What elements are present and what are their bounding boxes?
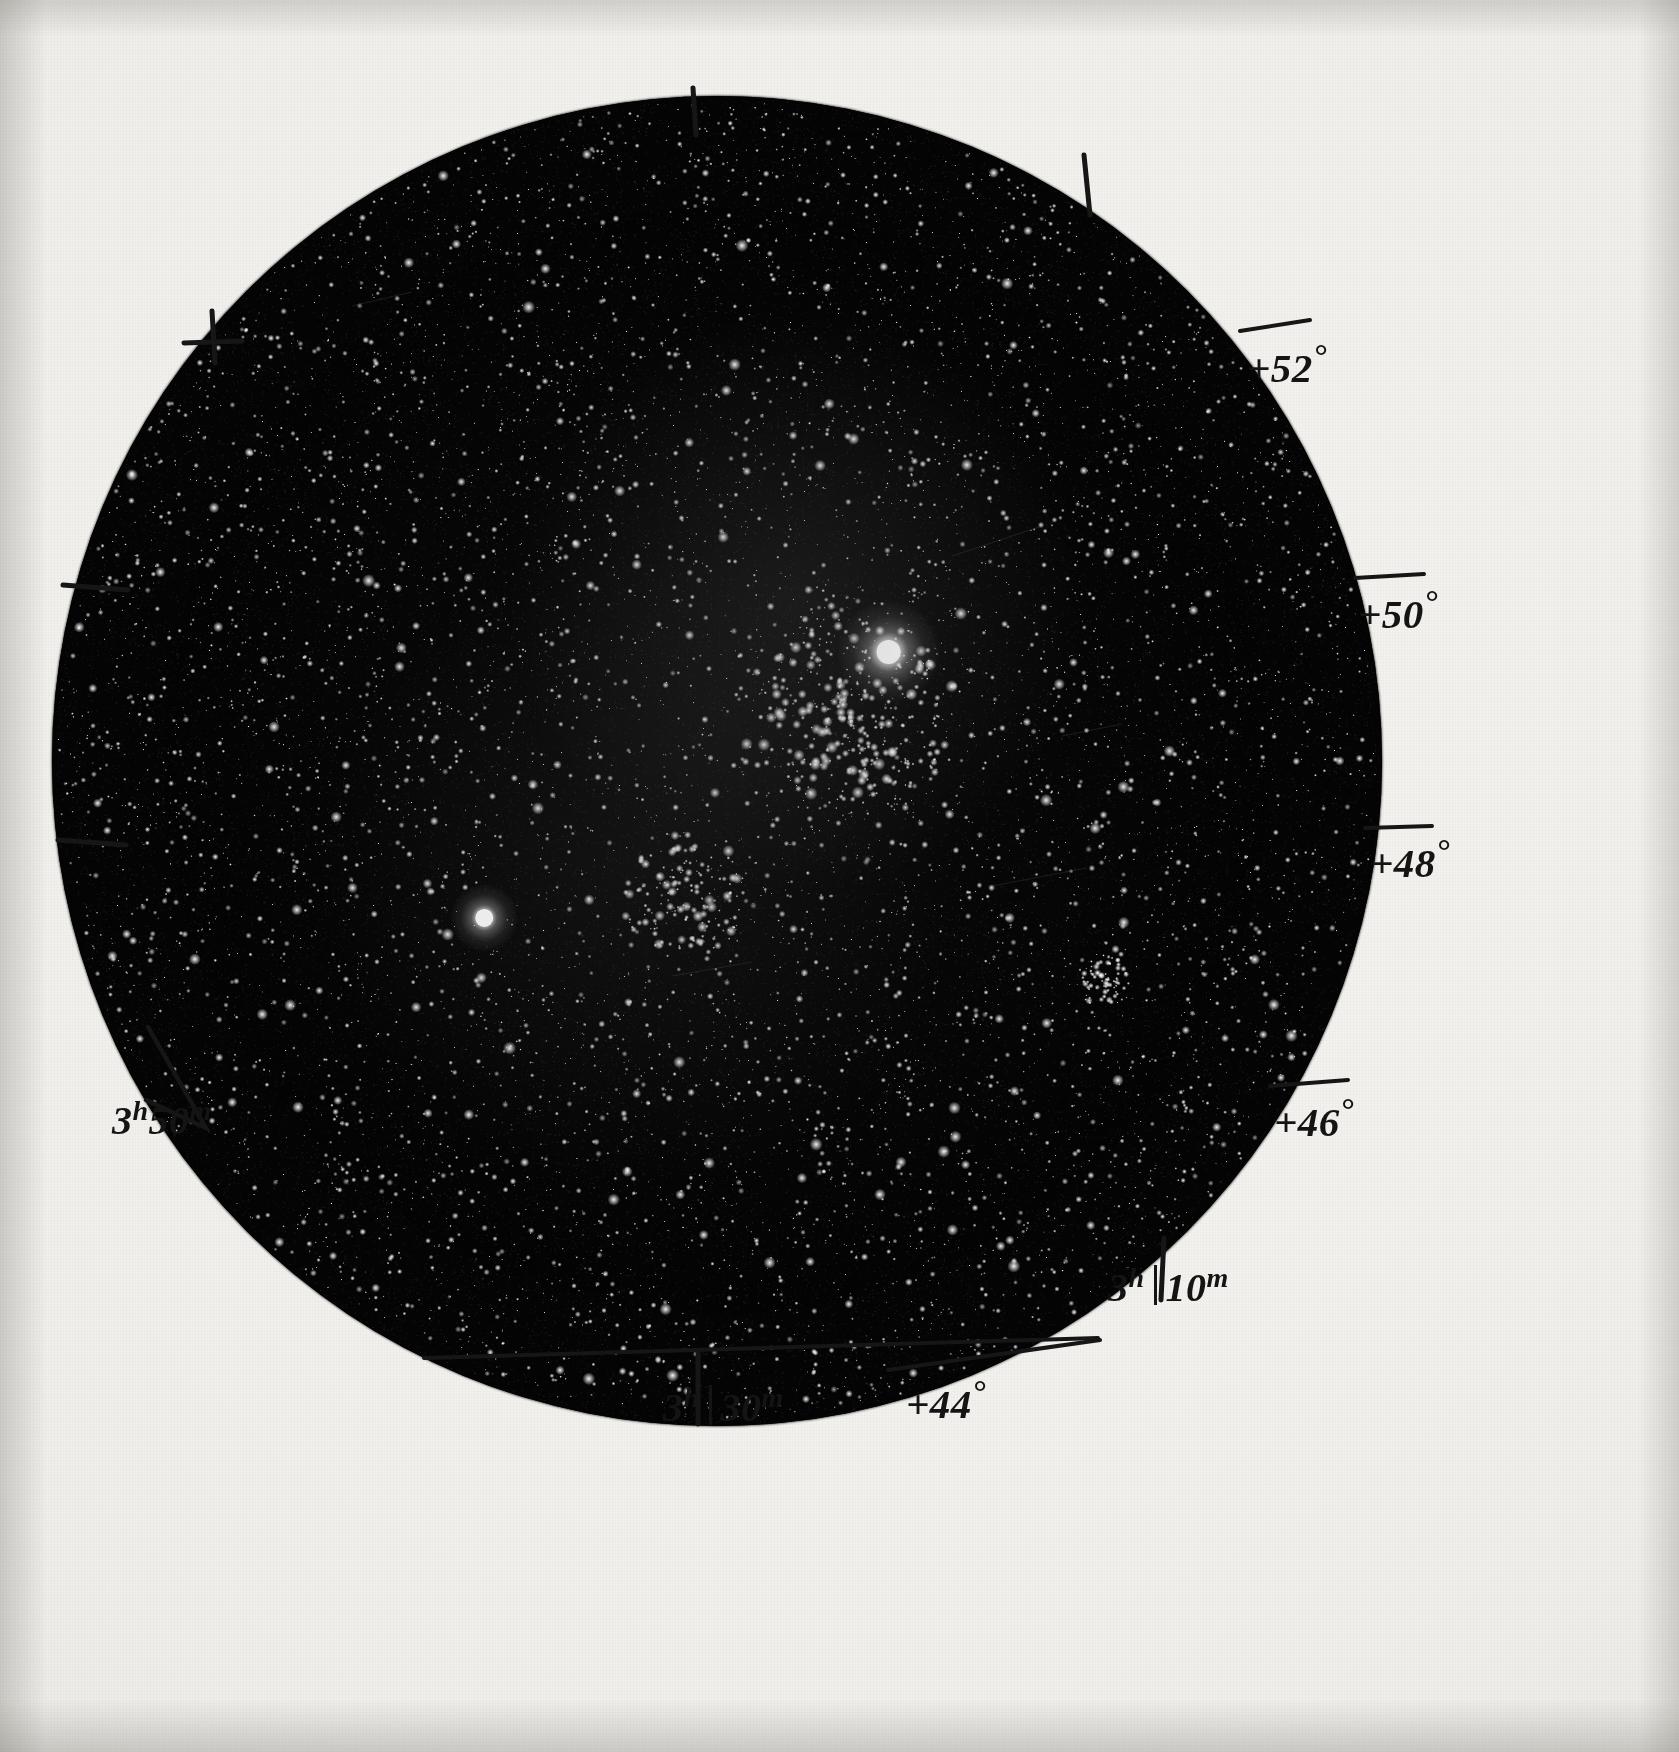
ra-minute-symbol: m xyxy=(762,1382,784,1413)
right-ascension-label-3h10m: 3h10m xyxy=(1108,1262,1229,1311)
circular-sky-field xyxy=(52,96,1382,1426)
declination-label-50: +50° xyxy=(1358,583,1438,638)
degree-symbol: ° xyxy=(1313,337,1327,374)
declination-value: +50 xyxy=(1358,591,1424,637)
degree-symbol: ° xyxy=(1436,832,1450,869)
ra-minute-symbol: m xyxy=(190,1095,212,1126)
ra-minutes: 30 xyxy=(721,1385,762,1430)
ra-minute-symbol: m xyxy=(1207,1262,1229,1293)
declination-label-52: +52° xyxy=(1247,337,1327,392)
ra-hours: 3 xyxy=(1108,1265,1129,1310)
right-ascension-label-3h50m: 3h50m xyxy=(112,1095,212,1144)
photographic-plate-page: +52°+50°+48°+46°+44°3h50m3h10m3h30m xyxy=(0,0,1679,1752)
ra-separator-tick xyxy=(709,1385,712,1425)
declination-label-48: +48° xyxy=(1370,832,1450,887)
ra-minutes: 10 xyxy=(1166,1265,1207,1310)
right-ascension-label-3h30m: 3h30m xyxy=(663,1382,784,1431)
ra-hour-symbol: h xyxy=(684,1382,700,1413)
ra-hour-symbol: h xyxy=(133,1095,149,1126)
ra-hour-symbol: h xyxy=(1129,1262,1145,1293)
ra-minutes: 50 xyxy=(149,1098,190,1143)
declination-value: +52 xyxy=(1247,345,1313,391)
declination-label-46: +46° xyxy=(1274,1091,1354,1146)
degree-symbol: ° xyxy=(972,1373,986,1410)
sky-field-disc xyxy=(52,96,1382,1426)
declination-label-44: +44° xyxy=(906,1373,986,1428)
ra-hours: 3 xyxy=(663,1385,684,1430)
ra-separator-tick xyxy=(1154,1265,1157,1305)
declination-value: +44 xyxy=(906,1381,972,1427)
declination-value: +46 xyxy=(1274,1099,1340,1145)
degree-symbol: ° xyxy=(1424,583,1438,620)
declination-value: +48 xyxy=(1370,840,1436,886)
star-field-canvas xyxy=(52,96,1382,1426)
degree-symbol: ° xyxy=(1340,1091,1354,1128)
ra-hours: 3 xyxy=(112,1098,133,1143)
